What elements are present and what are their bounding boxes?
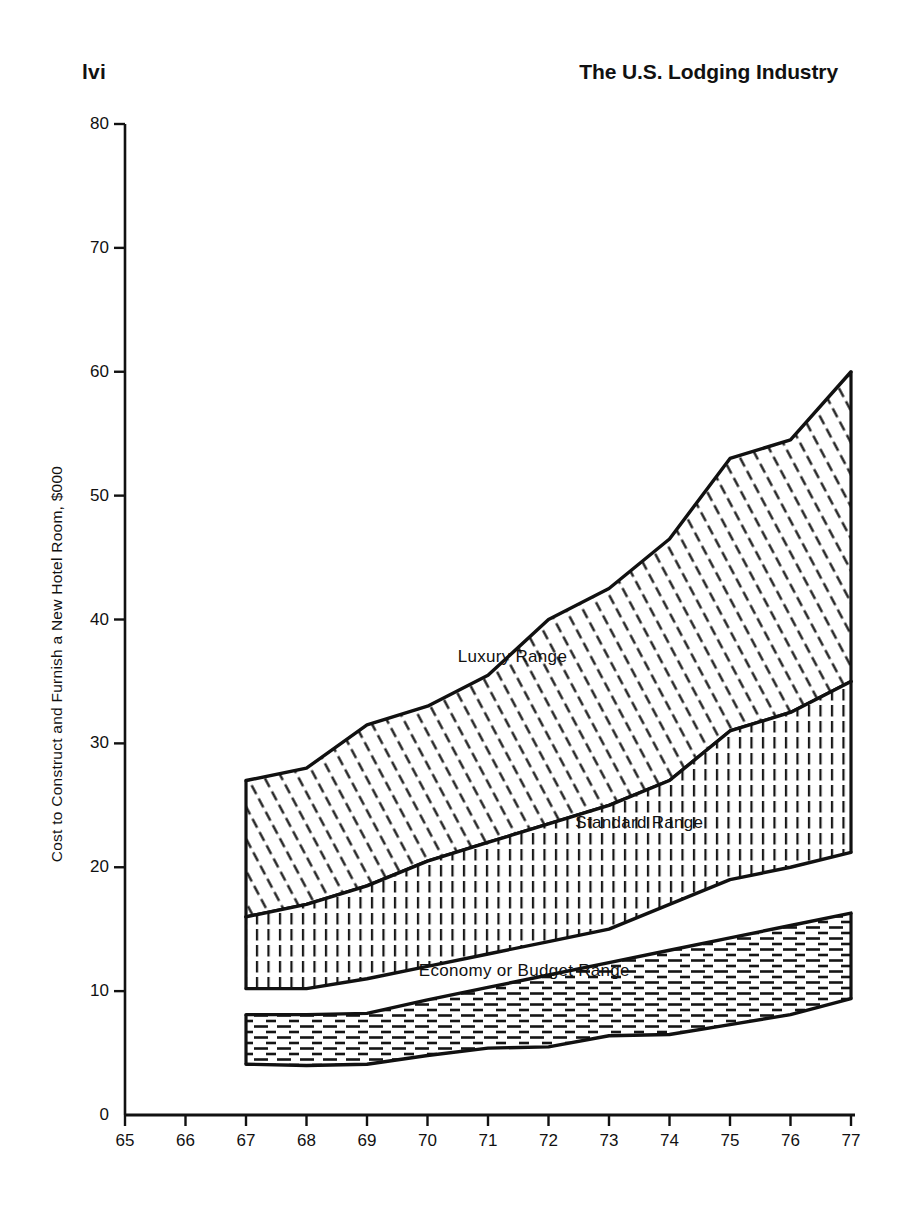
x-tick-label: 77 (831, 1131, 871, 1151)
x-tick-label: 67 (226, 1131, 266, 1151)
x-tick-label: 73 (589, 1131, 629, 1151)
x-tick-label: 74 (650, 1131, 690, 1151)
x-tick-label: 75 (710, 1131, 750, 1151)
y-tick-label: 30 (65, 733, 109, 753)
y-tick-label: 50 (65, 486, 109, 506)
x-tick-label: 70 (408, 1131, 448, 1151)
y-tick-label: 40 (65, 610, 109, 630)
y-tick-label: 70 (65, 238, 109, 258)
x-tick-label: 68 (287, 1131, 327, 1151)
band-annotation: Luxury Range (458, 647, 567, 667)
x-tick-label: 65 (105, 1131, 145, 1151)
chart-figure: Cost to Construct and Furnish a New Hote… (0, 0, 905, 1206)
x-tick-label: 69 (347, 1131, 387, 1151)
x-tick-label: 66 (166, 1131, 206, 1151)
y-tick-label: 0 (65, 1105, 109, 1125)
y-axis-title: Cost to Construct and Furnish a New Hote… (48, 364, 66, 964)
chart-plot-area (0, 0, 905, 1206)
x-tick-label: 76 (771, 1131, 811, 1151)
x-tick-label: 71 (468, 1131, 508, 1151)
y-tick-label: 80 (65, 114, 109, 134)
x-tick-label: 72 (529, 1131, 569, 1151)
y-tick-label: 20 (65, 857, 109, 877)
band-annotation: Standard Range (575, 813, 703, 833)
y-tick-label: 60 (65, 362, 109, 382)
band-annotation: Economy or Budget Range (419, 961, 630, 981)
y-tick-label: 10 (65, 981, 109, 1001)
